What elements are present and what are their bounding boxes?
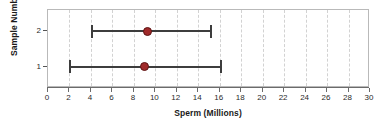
y-tick-mark [43,66,47,67]
x-tick-label: 16 [207,93,231,102]
x-tick-label: 14 [185,93,209,102]
gridline [306,10,308,86]
x-tick-label: 4 [78,93,102,102]
x-tick-mark [240,88,241,92]
x-tick-label: 10 [142,93,166,102]
gridline [198,10,200,86]
gridline [155,10,157,86]
x-tick-mark [305,88,306,92]
y-axis-label: Sample Number [9,0,19,61]
plot-area [47,9,369,87]
x-tick-label: 2 [56,93,80,102]
x-tick-label: 18 [228,93,252,102]
x-tick-mark [111,88,112,92]
sperm-count-errorbar-chart: Sample Number 12 02468101214161820222426… [0,0,388,125]
x-tick-mark [133,88,134,92]
y-tick-label: 1 [21,61,41,70]
errorbar-cap-upper [220,60,222,73]
y-tick-mark [43,30,47,31]
x-tick-label: 22 [271,93,295,102]
x-tick-mark [348,88,349,92]
data-point-marker [143,27,152,36]
x-tick-mark [369,88,370,92]
gridline [177,10,179,86]
x-tick-label: 12 [164,93,188,102]
x-tick-mark [283,88,284,92]
gridline [241,10,243,86]
x-tick-mark [219,88,220,92]
x-tick-mark [68,88,69,92]
x-tick-mark [154,88,155,92]
x-tick-mark [326,88,327,92]
gridline [263,10,265,86]
gridline [134,10,136,86]
gridline [69,10,71,86]
x-tick-label: 20 [250,93,274,102]
gridline [220,10,222,86]
x-tick-label: 26 [314,93,338,102]
x-axis-line [47,87,369,88]
gridline [349,10,351,86]
gridline [284,10,286,86]
x-tick-mark [176,88,177,92]
y-tick-label: 2 [21,26,41,35]
x-tick-mark [47,88,48,92]
x-tick-label: 30 [357,93,381,102]
errorbar-cap-lower [91,25,93,38]
x-tick-label: 0 [35,93,59,102]
x-tick-mark [197,88,198,92]
x-tick-label: 24 [293,93,317,102]
data-point-marker [140,62,149,71]
gridline [327,10,329,86]
gridline [91,10,93,86]
errorbar-cap-lower [69,60,71,73]
x-tick-label: 6 [99,93,123,102]
x-tick-mark [262,88,263,92]
gridline [112,10,114,86]
x-axis-label: Sperm (Millions) [47,108,369,118]
errorbar-cap-upper [210,25,212,38]
x-tick-label: 28 [336,93,360,102]
x-tick-label: 8 [121,93,145,102]
x-tick-mark [90,88,91,92]
